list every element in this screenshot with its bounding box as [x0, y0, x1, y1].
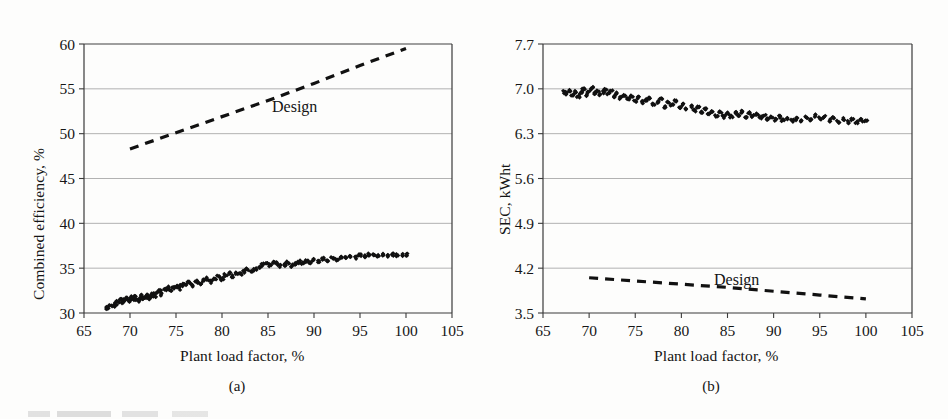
svg-text:7.0: 7.0	[515, 80, 535, 97]
svg-text:50: 50	[60, 125, 76, 142]
svg-text:105: 105	[440, 322, 464, 339]
svg-text:3.5: 3.5	[515, 305, 535, 322]
x-axis-title-b: Plant load factor, %	[654, 347, 778, 365]
chart-panel-b: 3.54.24.95.66.37.07.76570758085909510010…	[474, 0, 948, 419]
svg-text:80: 80	[674, 322, 690, 339]
svg-text:65: 65	[76, 322, 92, 339]
svg-text:70: 70	[122, 322, 138, 339]
svg-text:30: 30	[60, 305, 76, 322]
svg-text:35: 35	[60, 260, 76, 277]
svg-text:95: 95	[352, 322, 368, 339]
svg-text:5.6: 5.6	[515, 170, 535, 187]
svg-text:6.3: 6.3	[515, 125, 535, 142]
figure-two-panel-charts: 3035404550556065707580859095100105Design…	[0, 0, 948, 419]
svg-text:90: 90	[306, 322, 322, 339]
svg-text:4.2: 4.2	[515, 260, 534, 277]
svg-text:95: 95	[812, 322, 828, 339]
svg-text:45: 45	[60, 170, 76, 187]
y-axis-title-b: SEC, kWht	[496, 163, 514, 235]
svg-text:75: 75	[628, 322, 644, 339]
svg-text:40: 40	[60, 215, 76, 232]
svg-text:Design: Design	[272, 98, 317, 116]
svg-text:85: 85	[720, 322, 736, 339]
svg-text:Design: Design	[714, 271, 759, 289]
svg-text:60: 60	[60, 36, 76, 53]
svg-text:85: 85	[260, 322, 276, 339]
svg-text:80: 80	[214, 322, 230, 339]
svg-text:4.9: 4.9	[515, 215, 535, 232]
page-scan-artifact	[28, 411, 208, 417]
y-axis-title-a: Combined efficiency, %	[30, 148, 48, 300]
svg-text:75: 75	[168, 322, 184, 339]
x-axis-title-a: Plant load factor, %	[180, 347, 304, 365]
panel-caption-b: (b)	[474, 378, 948, 395]
svg-text:105: 105	[900, 322, 924, 339]
panel-caption-a: (a)	[0, 378, 474, 395]
svg-text:100: 100	[394, 322, 418, 339]
svg-text:55: 55	[60, 80, 76, 97]
svg-text:7.7: 7.7	[515, 36, 535, 53]
svg-text:70: 70	[581, 322, 597, 339]
svg-text:90: 90	[766, 322, 782, 339]
svg-text:65: 65	[535, 322, 551, 339]
svg-text:100: 100	[854, 322, 878, 339]
chart-panel-a: 3035404550556065707580859095100105Design…	[0, 0, 474, 419]
